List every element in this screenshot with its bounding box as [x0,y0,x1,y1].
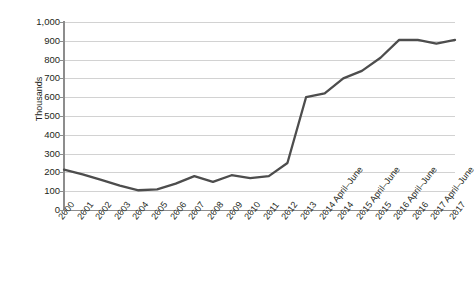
plot-area [64,22,455,210]
x-tick-mark [194,210,195,214]
gridline [64,78,455,79]
y-tick-label: 1,000 [24,17,60,27]
x-tick-mark [83,210,84,214]
x-tick-mark [64,210,65,214]
gridline [64,135,455,136]
y-tick-mark [59,22,64,23]
x-tick-mark [120,210,121,214]
x-tick-mark [436,210,437,214]
y-tick-mark [59,172,64,173]
gridline [64,41,455,42]
y-tick-mark [59,60,64,61]
x-tick-mark [138,210,139,214]
x-tick-mark [101,210,102,214]
x-tick-mark [232,210,233,214]
y-tick-mark [59,191,64,192]
x-tick-mark [362,210,363,214]
y-tick-mark [59,116,64,117]
gridline [64,154,455,155]
x-tick-mark [381,210,382,214]
gridline [64,22,455,23]
chart-title [4,0,464,3]
gridline [64,60,455,61]
x-tick-mark [213,210,214,214]
y-tick-mark [59,41,64,42]
y-tick-label: 0 [24,205,60,215]
gridline [64,116,455,117]
x-tick-mark [455,210,456,214]
x-tick-mark [306,210,307,214]
y-tick-mark [59,154,64,155]
y-tick-mark [59,97,64,98]
gridline [64,191,455,192]
x-tick-mark [287,210,288,214]
x-tick-mark [418,210,419,214]
x-tick-mark [176,210,177,214]
x-tick-mark [399,210,400,214]
y-axis-title: Thousands [34,44,44,154]
x-tick-mark [250,210,251,214]
x-tick-mark [325,210,326,214]
x-tick-mark [343,210,344,214]
gridline [64,97,455,98]
y-tick-mark [59,78,64,79]
y-tick-label: 100 [24,186,60,196]
y-tick-mark [59,135,64,136]
y-tick-label: 200 [24,167,60,177]
x-tick-mark [157,210,158,214]
x-tick-mark [269,210,270,214]
